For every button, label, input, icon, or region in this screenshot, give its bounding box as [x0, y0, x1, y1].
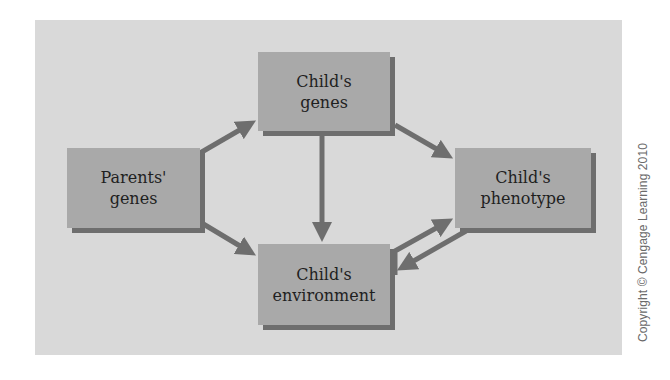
arrow-parents-to-child-environment: [200, 222, 250, 252]
node-label-line2: genes: [300, 92, 348, 113]
node-label-line1: Child's: [296, 264, 352, 285]
arrow-genes-to-phenotype: [395, 125, 447, 155]
node-parents-genes: Parents' genes: [67, 148, 200, 228]
node-label-line1: Child's: [296, 71, 352, 92]
node-label-line1: Parents': [100, 167, 166, 188]
node-childs-genes: Child's genes: [258, 52, 390, 131]
node-label-line2: genes: [110, 188, 158, 209]
node-childs-environment: Child's environment: [258, 244, 390, 325]
node-label-line2: phenotype: [480, 188, 565, 209]
diagram-figure: Parents' genes Child's genes Child's phe…: [0, 0, 670, 380]
node-childs-phenotype: Child's phenotype: [455, 148, 591, 228]
node-label-line2: environment: [273, 285, 376, 306]
copyright-credit: Copyright © Cengage Learning 2010: [636, 143, 650, 342]
arrow-parents-to-child-genes: [200, 124, 250, 153]
node-label-line1: Child's: [495, 167, 551, 188]
arrow-phenotype-to-environment: [403, 231, 466, 267]
